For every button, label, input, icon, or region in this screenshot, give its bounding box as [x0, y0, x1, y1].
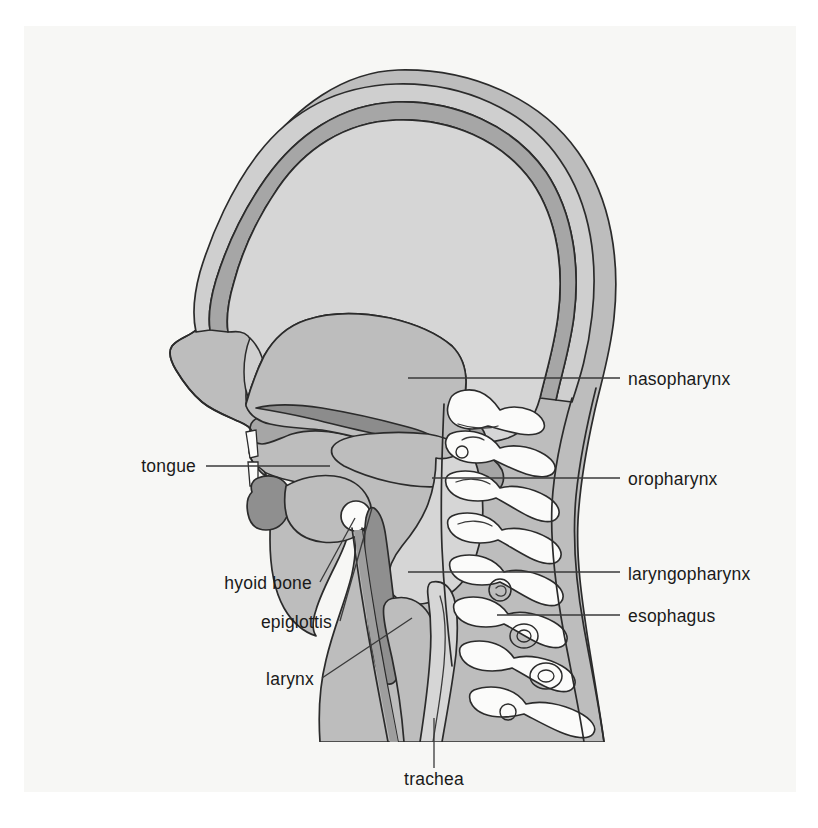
label-larynx: larynx [266, 669, 314, 689]
label-tongue: tongue [141, 456, 196, 476]
label-oropharynx: oropharynx [628, 469, 718, 489]
label-hyoid-bone: hyoid bone [224, 573, 312, 593]
label-trachea: trachea [404, 769, 464, 789]
label-laryngopharynx: laryngopharynx [628, 564, 751, 584]
label-esophagus: esophagus [628, 606, 715, 626]
label-nasopharynx: nasopharynx [628, 369, 730, 389]
label-epiglottis: epiglottis [261, 612, 332, 632]
upper-tooth [246, 430, 258, 458]
pharynx-sagittal-diagram: nasopharynx oropharynx laryngopharynx es… [0, 0, 818, 828]
anatomy-figure: nasopharynx oropharynx laryngopharynx es… [0, 0, 818, 828]
anatomy-illustration-group [170, 70, 616, 742]
